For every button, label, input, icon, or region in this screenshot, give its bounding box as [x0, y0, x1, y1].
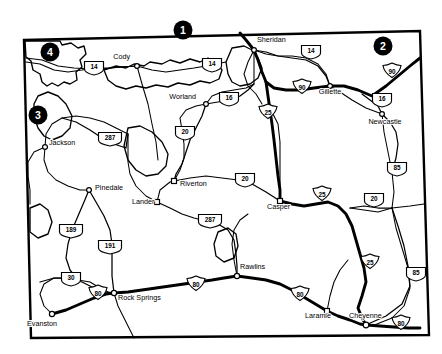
city-dot-cheyenne	[363, 322, 369, 328]
city-label-pinedale: Pinedale	[95, 183, 123, 192]
shield-us-189: 189	[60, 225, 83, 239]
city-label-evanston: Evanston	[27, 319, 57, 328]
city-dot-sheridan	[252, 48, 257, 53]
svg-text:80: 80	[94, 290, 102, 297]
city-dot-lander	[155, 200, 160, 205]
city-label-riverton: Riverton	[180, 179, 207, 188]
city-label-rawlins: Rawlins	[240, 262, 266, 271]
city-label-cody: Cody	[113, 52, 130, 61]
shield-us-191: 191	[99, 241, 122, 255]
shield-us-30: 30	[62, 273, 81, 287]
location-marker-3-label: 3	[35, 109, 41, 121]
svg-text:287: 287	[105, 134, 116, 141]
location-marker-2[interactable]: 2	[374, 37, 393, 56]
city-label-rock-springs: Rock Springs	[118, 293, 161, 302]
shield-us-16-east: 16	[373, 94, 392, 108]
svg-text:25: 25	[264, 109, 272, 116]
city-dot-pinedale	[87, 188, 92, 193]
svg-text:287: 287	[205, 216, 216, 223]
city-dot-riverton	[172, 179, 177, 184]
svg-text:25: 25	[366, 259, 374, 266]
svg-text:16: 16	[225, 94, 233, 101]
svg-text:191: 191	[105, 242, 116, 249]
map-canvas: Cody Sheridan Gillette Worland Newcastle…	[0, 0, 442, 354]
city-label-laramie: Laramie	[305, 311, 331, 320]
city-label-cheyenne: Cheyenne	[349, 311, 382, 320]
location-marker-3[interactable]: 3	[29, 106, 48, 125]
city-label-newcastle: Newcastle	[368, 117, 401, 126]
city-dot-newcastle	[380, 112, 385, 117]
shield-us-85-north: 85	[388, 163, 407, 177]
svg-text:14: 14	[307, 47, 315, 54]
shield-us-85-south: 85	[407, 268, 426, 282]
location-marker-4[interactable]: 4	[41, 43, 60, 62]
shield-us-14-sheridan: 14	[302, 46, 321, 60]
location-marker-1[interactable]: 1	[174, 21, 193, 40]
svg-text:80: 80	[397, 320, 405, 327]
wyoming-highway-map: Cody Sheridan Gillette Worland Newcastle…	[0, 0, 442, 354]
svg-text:20: 20	[181, 128, 189, 135]
shield-us-20-east: 20	[365, 194, 384, 208]
shield-us-20-riverton: 20	[236, 174, 255, 188]
city-label-sheridan: Sheridan	[257, 35, 286, 44]
svg-text:16: 16	[378, 95, 386, 102]
shield-us-14-central: 14	[203, 59, 222, 73]
svg-text:14: 14	[90, 63, 98, 70]
svg-text:85: 85	[412, 269, 420, 276]
shield-us-287-lander: 287	[199, 215, 222, 229]
svg-text:80: 80	[296, 291, 304, 298]
state-border-group	[24, 31, 429, 338]
city-dot-evanston	[49, 311, 54, 316]
city-label-gillette: Gillette	[319, 87, 341, 96]
city-label-worland: Worland	[169, 92, 196, 101]
location-marker-2-label: 2	[380, 40, 386, 52]
shield-us-287-jackson: 287	[99, 133, 122, 147]
svg-text:20: 20	[241, 175, 249, 182]
location-marker-4-label: 4	[47, 46, 53, 58]
city-label-casper: Casper	[267, 202, 291, 211]
svg-text:90: 90	[298, 84, 306, 91]
city-dot-jackson	[43, 145, 48, 150]
city-dot-rock-springs	[111, 290, 116, 295]
city-dot-rawlins	[234, 273, 239, 278]
svg-text:25: 25	[318, 191, 326, 198]
shield-us-14-west: 14	[85, 62, 104, 76]
shield-us-16-worland: 16	[220, 93, 239, 107]
city-dot-worland	[204, 102, 209, 107]
city-label-lander: Lander	[132, 197, 155, 206]
svg-text:20: 20	[370, 195, 378, 202]
svg-text:30: 30	[67, 274, 75, 281]
svg-text:189: 189	[66, 226, 77, 233]
city-dot-cody	[135, 64, 140, 69]
shield-us-20-bighorn: 20	[176, 127, 195, 141]
svg-text:80: 80	[192, 281, 200, 288]
svg-text:90: 90	[388, 68, 396, 75]
location-marker-1-label: 1	[180, 24, 186, 36]
city-label-jackson: Jackson	[49, 138, 75, 147]
svg-text:14: 14	[208, 60, 216, 67]
state-border-outline	[24, 31, 429, 338]
svg-text:85: 85	[393, 164, 401, 171]
